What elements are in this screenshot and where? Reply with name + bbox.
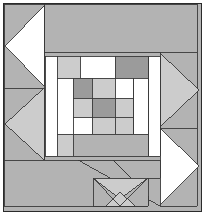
center-left-white-sash [45,56,57,156]
center-grid-r1c3-white [115,78,133,98]
center-grid-r2c1-light [73,98,92,117]
center-grid-r1c1-dark [73,78,92,98]
center-top-left-light [57,56,80,78]
quilt-block-canvas [0,0,205,215]
center-right-white-inner [133,78,148,134]
top-band-right [44,4,197,52]
center-top-right-dark [115,56,148,78]
center-grid-r1c2-light [92,78,115,98]
center-grid-r3c1-white [73,117,92,134]
quilt-pieces-group [4,4,201,211]
center-bottom-left-light [57,134,73,156]
center-grid-r2c2-dark [92,98,115,117]
center-right-white-sash [148,56,160,156]
center-bottom-band-dark [73,134,148,156]
center-grid-r3c2-light [92,117,115,134]
center-top-mid-white [80,56,115,78]
center-grid-r3c3-light [115,117,133,134]
center-grid-r2c3-light [115,98,133,117]
center-left-white-inner [57,78,73,134]
quilt-block-image [0,0,205,215]
